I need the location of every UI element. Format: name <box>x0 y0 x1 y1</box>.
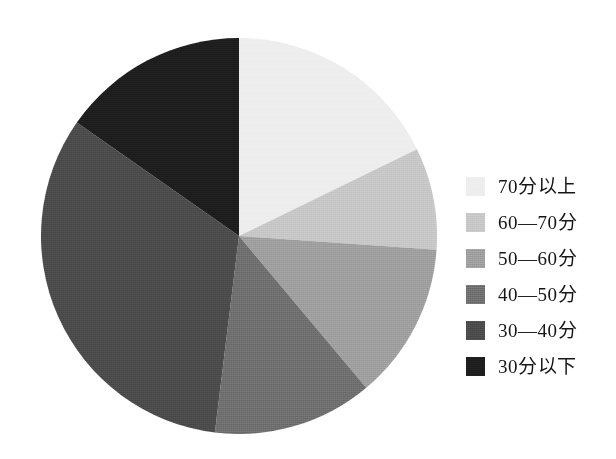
pie-svg: 70分以上 — 17.8%60—70分 — 8.3%50—60分 — 12.8%… <box>41 38 437 434</box>
legend-item: 70分以上 <box>466 168 606 204</box>
pie-slice-group: 70分以上 — 17.8%60—70分 — 8.3%50—60分 — 12.8%… <box>41 38 437 434</box>
legend-item-label: 30—40分 <box>498 321 577 340</box>
legend-item-label: 30分以下 <box>498 357 577 376</box>
legend-color-swatch <box>466 213 485 232</box>
legend-item: 30分以下 <box>466 348 606 384</box>
legend-item-label: 70分以上 <box>498 177 577 196</box>
legend-color-swatch <box>466 357 485 376</box>
legend-item: 50—60分 <box>466 240 606 276</box>
legend-color-swatch <box>466 285 485 304</box>
pie-chart-graphic: 70分以上 — 17.8%60—70分 — 8.3%50—60分 — 12.8%… <box>41 38 437 434</box>
legend-color-swatch <box>466 321 485 340</box>
legend: 70分以上60—70分50—60分40—50分30—40分30分以下 <box>466 168 606 384</box>
legend-color-swatch <box>466 177 485 196</box>
legend-item-label: 60—70分 <box>498 213 577 232</box>
legend-color-swatch <box>466 249 485 268</box>
legend-item-label: 40—50分 <box>498 285 577 304</box>
legend-item-label: 50—60分 <box>498 249 577 268</box>
pie-chart-figure: 70分以上 — 17.8%60—70分 — 8.3%50—60分 — 12.8%… <box>0 0 616 459</box>
legend-item: 40—50分 <box>466 276 606 312</box>
legend-item: 30—40分 <box>466 312 606 348</box>
legend-item: 60—70分 <box>466 204 606 240</box>
